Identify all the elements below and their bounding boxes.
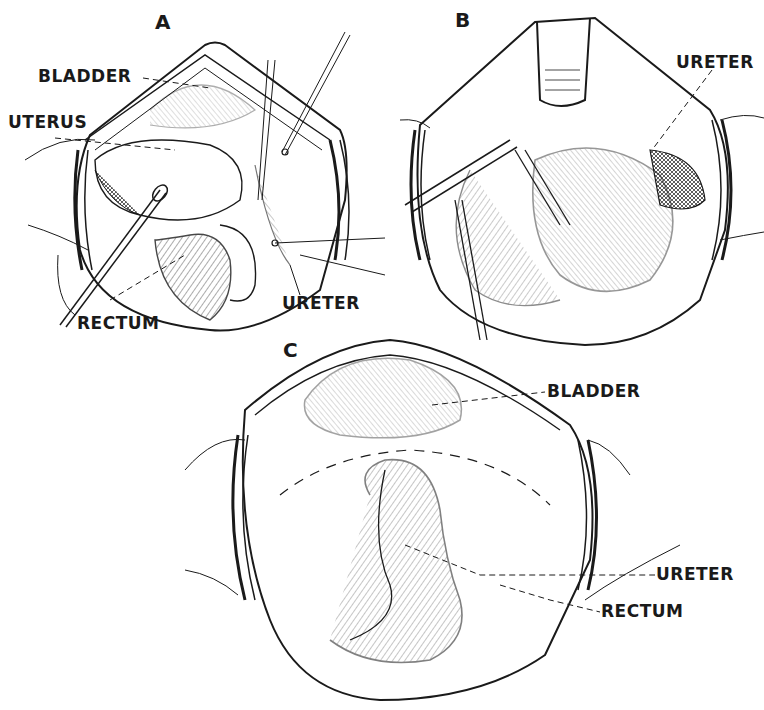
label-a-uterus: UTERUS: [8, 114, 87, 131]
panel-letter-b: B: [455, 10, 470, 30]
label-a-bladder: BLADDER: [38, 68, 131, 85]
panel-letter-a: A: [155, 12, 170, 32]
label-b-ureter: URETER: [676, 54, 754, 71]
panel-letter-c: C: [283, 340, 298, 360]
label-a-ureter: URETER: [282, 295, 360, 312]
label-c-ureter: URETER: [656, 566, 734, 583]
label-c-rectum: RECTUM: [601, 603, 684, 620]
label-c-bladder: BLADDER: [547, 383, 640, 400]
label-a-rectum: RECTUM: [77, 315, 160, 332]
